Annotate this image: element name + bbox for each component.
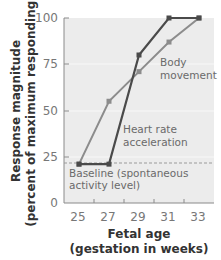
svg-text:Response magnitude: Response magnitude bbox=[9, 40, 23, 182]
body-movement-data-point bbox=[137, 69, 142, 74]
svg-text:Heart rate: Heart rate bbox=[123, 123, 177, 135]
y-axis-title: Response magnitude (percent of maximum r… bbox=[9, 0, 38, 227]
x-axis-title: Fetal age (gestation in weeks) bbox=[70, 227, 209, 256]
x-tick-label: 27 bbox=[100, 210, 115, 224]
heart-rate-data-point bbox=[167, 16, 172, 21]
x-tick-label: 25 bbox=[70, 210, 85, 224]
heart-rate-data-point bbox=[137, 53, 142, 58]
x-tick-label: 33 bbox=[190, 210, 205, 224]
body-movement-data-point bbox=[167, 40, 172, 45]
y-tick-labels: 100 75 50 25 0 bbox=[35, 11, 58, 210]
svg-text:Body: Body bbox=[160, 56, 187, 68]
x-tick-labels: 25 27 29 31 33 bbox=[70, 210, 205, 224]
chart: 100 75 50 25 0 25 27 29 31 33 Body movem… bbox=[0, 0, 221, 260]
x-tick-label: 31 bbox=[160, 210, 175, 224]
svg-text:acceleration: acceleration bbox=[123, 136, 188, 148]
svg-text:(gestation in weeks): (gestation in weeks) bbox=[70, 242, 209, 256]
y-tick-label: 50 bbox=[43, 104, 58, 118]
svg-text:(percent of maximum responding: (percent of maximum responding) bbox=[24, 0, 38, 227]
svg-text:Baseline (spontaneous: Baseline (spontaneous bbox=[69, 167, 188, 179]
svg-text:activity level): activity level) bbox=[69, 179, 140, 191]
y-tick-label: 0 bbox=[50, 196, 58, 210]
heart-rate-data-point bbox=[77, 162, 82, 167]
heart-rate-data-point bbox=[197, 16, 202, 21]
svg-text:Fetal age: Fetal age bbox=[108, 227, 171, 241]
x-tick-label: 29 bbox=[130, 210, 145, 224]
heart-rate-data-point bbox=[107, 162, 112, 167]
svg-text:movement: movement bbox=[160, 69, 217, 81]
y-tick-label: 25 bbox=[43, 150, 58, 164]
body-movement-data-point bbox=[107, 99, 112, 104]
y-tick-label: 75 bbox=[43, 57, 58, 71]
y-tick-label: 100 bbox=[35, 11, 58, 25]
